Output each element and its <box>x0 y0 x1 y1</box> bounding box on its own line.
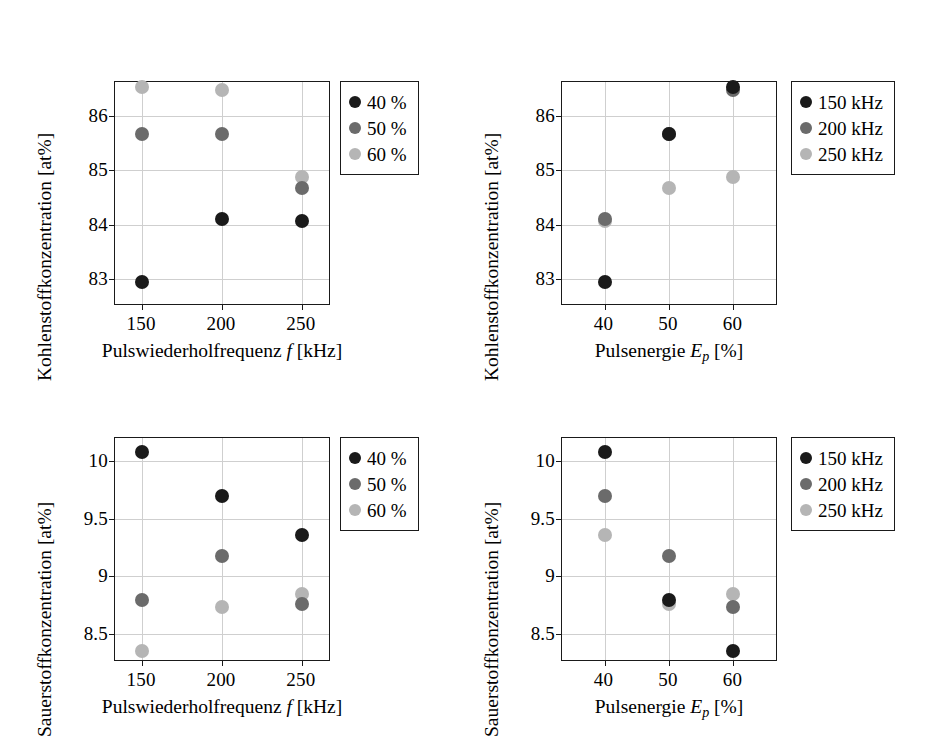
y-axis-tick <box>556 519 562 520</box>
x-tick-label: 60 <box>723 314 742 333</box>
data-point <box>295 214 309 228</box>
y-axis-tick <box>556 461 562 462</box>
plot-area <box>561 437 777 661</box>
x-axis-tick <box>302 304 303 310</box>
y-axis-tick <box>109 279 115 280</box>
y-axis-tick <box>109 519 115 520</box>
x-tick-label: 60 <box>723 670 742 689</box>
legend-frequency: 150 kHz200 kHz250 kHz <box>791 81 895 175</box>
data-point <box>726 600 740 614</box>
gridline-vertical <box>302 438 303 660</box>
data-point <box>598 212 612 226</box>
y-axis-tick <box>109 170 115 171</box>
x-tick-label: 250 <box>286 670 315 689</box>
data-point <box>295 181 309 195</box>
legend-label: 200 kHz <box>818 119 883 138</box>
legend-label: 150 kHz <box>818 93 883 112</box>
y-tick-label: 86 <box>89 105 108 124</box>
legend-entry: 250 kHz <box>800 141 883 167</box>
x-tick-label: 200 <box>206 670 235 689</box>
x-axis-tick <box>605 304 606 310</box>
legend-marker-icon <box>349 478 361 490</box>
y-axis-tick <box>556 116 562 117</box>
y-tick-label: 10 <box>89 451 108 470</box>
legend-marker-icon <box>349 504 361 516</box>
data-point <box>215 549 229 563</box>
legend-label: 40 % <box>367 449 407 468</box>
y-axis-tick <box>556 576 562 577</box>
panel-carbon-vs-frequency: Kohlenstoffkonzentration [at%] 86858483 … <box>0 0 463 371</box>
x-tick-label: 150 <box>127 314 156 333</box>
y-tick-label: 83 <box>536 269 555 288</box>
gridline-vertical <box>222 82 223 304</box>
legend-marker-icon <box>349 452 361 464</box>
data-point <box>598 489 612 503</box>
x-axis-tick <box>605 660 606 666</box>
y-axis-tick <box>556 225 562 226</box>
legend-entry: 50 % <box>349 115 407 141</box>
x-tick-label: 50 <box>658 314 677 333</box>
plot-area <box>114 81 330 305</box>
legend-entry: 200 kHz <box>800 115 883 141</box>
legend-label: 60 % <box>367 145 407 164</box>
data-point <box>135 127 149 141</box>
legend-label: 150 kHz <box>818 449 883 468</box>
y-axis-tick <box>556 634 562 635</box>
legend-label: 50 % <box>367 119 407 138</box>
data-point <box>215 600 229 614</box>
y-tick-label: 9 <box>98 566 108 585</box>
legend-entry: 150 kHz <box>800 89 883 115</box>
legend-entry: 60 % <box>349 141 407 167</box>
legend-frequency: 150 kHz200 kHz250 kHz <box>791 437 895 531</box>
figure-four-panel-concentration-plots: Kohlenstoffkonzentration [at%] 86858483 … <box>0 0 926 742</box>
gridline-vertical <box>142 438 143 660</box>
data-point <box>215 212 229 226</box>
data-point <box>215 83 229 97</box>
legend-entry: 60 % <box>349 497 407 523</box>
y-tick-label: 9.5 <box>531 508 555 527</box>
data-point <box>135 593 149 607</box>
x-axis-tick <box>733 304 734 310</box>
data-point <box>726 644 740 658</box>
data-point <box>662 181 676 195</box>
y-tick-label: 8.5 <box>531 623 555 642</box>
data-point <box>662 549 676 563</box>
x-axis-tick <box>222 304 223 310</box>
x-axis-title: Pulsenergie Ep [%] <box>489 696 849 721</box>
legend-entry: 150 kHz <box>800 445 883 471</box>
legend-label: 50 % <box>367 475 407 494</box>
x-axis-title-text: Pulsenergie Ep [%] <box>595 696 744 717</box>
legend-label: 200 kHz <box>818 475 883 494</box>
legend-marker-icon <box>800 478 812 490</box>
gridline-vertical <box>605 82 606 304</box>
y-axis-tick <box>556 279 562 280</box>
legend-marker-icon <box>800 504 812 516</box>
legend-marker-icon <box>349 96 361 108</box>
y-tick-label: 85 <box>89 160 108 179</box>
data-point <box>215 489 229 503</box>
x-axis-title: Pulswiederholfrequenz f [kHz] <box>42 696 402 718</box>
x-tick-label: 200 <box>206 314 235 333</box>
y-axis-tick <box>109 225 115 226</box>
legend-label: 60 % <box>367 501 407 520</box>
x-tick-label: 40 <box>594 314 613 333</box>
panel-carbon-vs-pulse-energy: Kohlenstoffkonzentration [at%] 86858483 … <box>463 0 926 371</box>
data-point <box>598 528 612 542</box>
y-tick-label: 9 <box>545 566 555 585</box>
x-tick-label: 50 <box>658 670 677 689</box>
x-axis-tick <box>669 660 670 666</box>
x-axis-tick <box>142 660 143 666</box>
legend-marker-icon <box>800 452 812 464</box>
legend-entry: 200 kHz <box>800 471 883 497</box>
legend-marker-icon <box>800 96 812 108</box>
data-point <box>215 127 229 141</box>
y-tick-label: 83 <box>89 269 108 288</box>
legend-pulse-energy: 40 %50 %60 % <box>340 437 419 531</box>
gridline-vertical <box>142 82 143 304</box>
y-axis-tick <box>109 634 115 635</box>
legend-pulse-energy: 40 %50 %60 % <box>340 81 419 175</box>
data-point <box>295 597 309 611</box>
gridline-vertical <box>733 438 734 660</box>
legend-entry: 40 % <box>349 445 407 471</box>
x-axis-tick <box>302 660 303 666</box>
